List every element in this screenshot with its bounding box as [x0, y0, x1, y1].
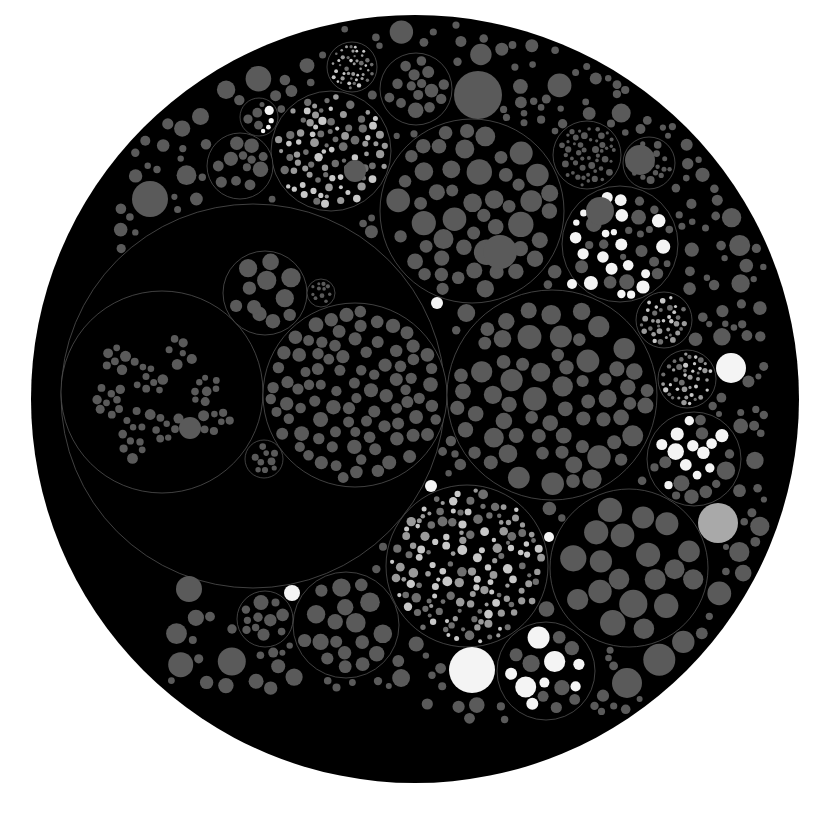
leaf-circle	[582, 148, 587, 153]
leaf-circle	[352, 154, 358, 160]
leaf-circle	[712, 480, 720, 488]
leaf-circle	[453, 616, 458, 621]
leaf-circle	[713, 328, 730, 345]
leaf-circle	[422, 698, 433, 709]
leaf-circle	[205, 612, 215, 622]
leaf-circle	[403, 450, 416, 463]
leaf-circle	[427, 511, 431, 515]
leaf-circle	[731, 274, 749, 292]
leaf-circle	[423, 377, 438, 392]
leaf-circle	[484, 610, 493, 619]
leaf-circle	[152, 426, 160, 434]
leaf-circle	[678, 541, 700, 563]
leaf-circle	[322, 287, 326, 291]
leaf-circle	[553, 631, 566, 644]
leaf-circle	[586, 173, 590, 177]
leaf-circle	[477, 280, 494, 297]
leaf-circle	[359, 125, 367, 133]
leaf-circle	[531, 363, 550, 382]
leaf-circle	[260, 102, 265, 107]
leaf-circle	[350, 77, 353, 80]
leaf-circle	[717, 461, 735, 479]
leaf-circle	[477, 209, 490, 222]
leaf-circle	[414, 197, 427, 210]
leaf-circle	[558, 401, 573, 416]
leaf-circle	[755, 331, 765, 341]
leaf-circle	[416, 583, 422, 589]
leaf-circle	[324, 677, 332, 685]
leaf-circle	[478, 337, 491, 350]
leaf-circle	[343, 72, 346, 75]
container-dense-right	[553, 121, 621, 189]
leaf-circle	[519, 588, 525, 594]
leaf-circle	[505, 583, 509, 587]
leaf-circle	[651, 332, 656, 337]
leaf-circle	[527, 573, 531, 577]
leaf-circle	[410, 130, 417, 137]
leaf-circle	[656, 240, 670, 254]
leaf-circle	[317, 286, 321, 290]
leaf-circle	[533, 579, 539, 585]
leaf-circle	[313, 198, 320, 205]
leaf-circle	[127, 453, 138, 464]
leaf-circle	[309, 396, 320, 407]
leaf-circle	[273, 362, 284, 373]
leaf-circle	[292, 187, 297, 192]
leaf-circle	[480, 527, 489, 536]
leaf-circle	[499, 444, 518, 463]
leaf-circle	[226, 417, 234, 425]
leaf-circle	[371, 316, 384, 329]
leaf-circle	[553, 376, 573, 396]
leaf-circle	[642, 329, 647, 334]
leaf-circle	[576, 150, 581, 155]
leaf-circle	[669, 296, 672, 299]
leaf-circle	[367, 69, 369, 71]
leaf-circle	[656, 319, 660, 323]
leaf-circle	[313, 412, 328, 427]
leaf-circle-gray	[625, 145, 655, 175]
leaf-circle	[428, 672, 435, 679]
leaf-circle	[588, 162, 595, 169]
leaf-circle	[683, 569, 703, 589]
leaf-circle	[622, 425, 643, 446]
leaf-circle	[592, 146, 599, 153]
leaf-circle	[548, 265, 562, 279]
leaf-circle	[136, 438, 143, 445]
leaf-circle	[308, 162, 314, 168]
leaf-circle	[239, 151, 247, 159]
leaf-circle	[311, 285, 314, 288]
leaf-circle	[558, 514, 565, 521]
leaf-circle	[407, 429, 420, 442]
leaf-circle	[328, 614, 343, 629]
leaf-circle	[168, 652, 193, 677]
leaf-circle	[199, 174, 206, 181]
leaf-circle	[573, 135, 579, 141]
leaf-circle	[737, 299, 746, 308]
leaf-circle	[623, 260, 634, 271]
leaf-circle	[266, 125, 271, 130]
leaf-circle	[538, 104, 545, 111]
leaf-circle	[286, 184, 290, 188]
leaf-circle	[432, 594, 437, 599]
leaf-circle	[485, 190, 504, 209]
leaf-circle	[599, 142, 605, 148]
leaf-circle	[496, 633, 500, 637]
leaf-circle	[162, 118, 173, 129]
leaf-circle	[341, 55, 345, 59]
leaf-circle	[262, 467, 268, 473]
leaf-circle	[190, 193, 203, 206]
leaf-circle	[427, 599, 432, 604]
leaf-circle	[339, 660, 352, 673]
leaf-circle	[390, 560, 394, 564]
leaf-circle	[695, 168, 709, 182]
leaf-circle	[318, 117, 326, 125]
leaf-circle	[457, 304, 475, 322]
leaf-circle	[654, 594, 678, 618]
leaf-circle	[451, 551, 456, 556]
leaf-circle	[706, 613, 713, 620]
leaf-circle	[280, 75, 291, 86]
leaf-circle	[332, 578, 350, 596]
leaf-circle	[657, 324, 660, 327]
leaf-circle	[457, 545, 467, 555]
leaf-circle	[320, 293, 325, 298]
